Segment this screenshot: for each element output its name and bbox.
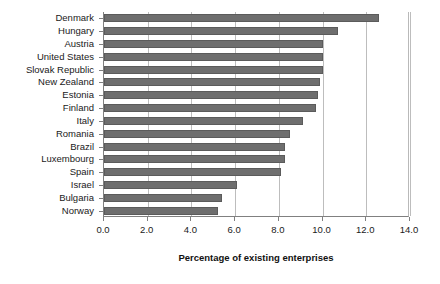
category-label: Estonia <box>62 90 94 100</box>
bar-row <box>104 91 408 99</box>
bar <box>104 143 285 151</box>
x-tick-label: 6.0 <box>228 224 241 235</box>
x-tick <box>190 217 191 221</box>
bar-row <box>104 155 408 163</box>
category-axis: DenmarkHungaryAustriaUnited StatesSlovak… <box>0 12 99 217</box>
category-label: Italy <box>77 116 94 126</box>
bar-row <box>104 168 408 176</box>
bar <box>104 207 218 215</box>
x-tick <box>409 217 410 221</box>
bar-row <box>104 66 408 74</box>
x-tick <box>147 217 148 221</box>
gridline <box>410 12 411 216</box>
category-label: Finland <box>63 103 94 113</box>
category-label: Slovak Republic <box>26 65 94 75</box>
x-tick <box>234 217 235 221</box>
bar-row <box>104 181 408 189</box>
bar-row <box>104 104 408 112</box>
bar-row <box>104 78 408 86</box>
x-tick-label: 0.0 <box>96 224 109 235</box>
category-label: Hungary <box>58 26 94 36</box>
x-tick-label: 12.0 <box>356 224 375 235</box>
category-label: Bulgaria <box>59 193 94 203</box>
category-label: Denmark <box>55 13 94 23</box>
bar-row <box>104 40 408 48</box>
x-tick-label: 14.0 <box>400 224 419 235</box>
category-label: Austria <box>64 39 94 49</box>
bar-chart: DenmarkHungaryAustriaUnited StatesSlovak… <box>0 0 440 284</box>
x-tick <box>365 217 366 221</box>
bar <box>104 130 290 138</box>
bar <box>104 53 323 61</box>
category-label: Romania <box>56 129 94 139</box>
bar-row <box>104 130 408 138</box>
category-label: Norway <box>62 206 94 216</box>
x-axis-title: Percentage of existing enterprises <box>103 252 409 263</box>
x-axis-ticks <box>103 217 409 223</box>
x-tick-label: 10.0 <box>312 224 331 235</box>
bar <box>104 91 318 99</box>
x-tick <box>322 217 323 221</box>
category-label: Spain <box>70 167 94 177</box>
category-label: Israel <box>71 180 94 190</box>
x-axis-tick-labels: 0.02.04.06.08.010.012.014.0 <box>103 224 409 238</box>
bar-row <box>104 14 408 22</box>
x-tick <box>278 217 279 221</box>
category-label: United States <box>37 52 94 62</box>
category-label: Brazil <box>70 142 94 152</box>
bar-row <box>104 207 408 215</box>
bar <box>104 27 338 35</box>
bar <box>104 40 323 48</box>
bar-row <box>104 53 408 61</box>
bar-row <box>104 117 408 125</box>
bar <box>104 104 316 112</box>
bar <box>104 194 222 202</box>
x-tick <box>103 217 104 221</box>
category-label: Luxembourg <box>41 154 94 164</box>
x-tick-label: 2.0 <box>140 224 153 235</box>
bar <box>104 168 281 176</box>
bar <box>104 66 323 74</box>
bar <box>104 117 303 125</box>
bar <box>104 14 379 22</box>
bar-row <box>104 143 408 151</box>
bars-layer <box>104 12 408 216</box>
bar-row <box>104 194 408 202</box>
bar <box>104 155 285 163</box>
category-label: New Zealand <box>38 77 94 87</box>
x-tick-label: 4.0 <box>184 224 197 235</box>
x-tick-label: 8.0 <box>271 224 284 235</box>
bar-row <box>104 27 408 35</box>
bar <box>104 181 237 189</box>
plot-area <box>103 12 409 217</box>
bar <box>104 78 320 86</box>
